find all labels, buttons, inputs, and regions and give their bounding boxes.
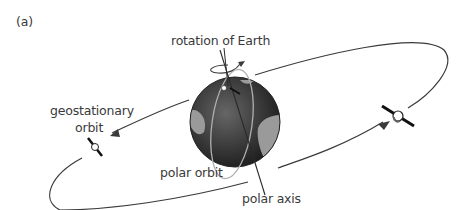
geostationary-label-2: orbit [75, 120, 103, 135]
satellite-icon [88, 138, 102, 156]
rotation-arrow-icon [211, 61, 245, 73]
rotation-label: rotation of Earth [171, 33, 270, 48]
orbit-arrow-icon [378, 121, 390, 130]
panel-label: (a) [16, 14, 33, 29]
polar-axis-label: polar axis [242, 191, 301, 206]
earth-globe-icon [190, 77, 290, 168]
geostationary-label: geostationary [50, 103, 134, 118]
polar-orbit-label: polar orbit [160, 165, 223, 180]
